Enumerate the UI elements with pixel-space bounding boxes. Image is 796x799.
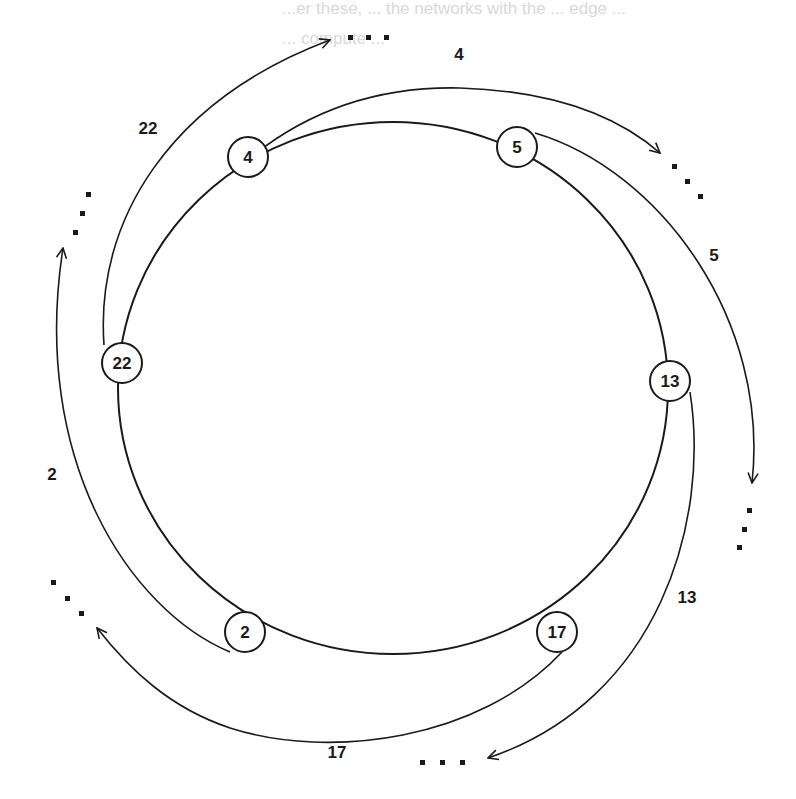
- node-13: 13: [650, 361, 690, 401]
- ellipsis-after-5: [737, 508, 752, 550]
- ellipsis-after-4: [672, 164, 703, 199]
- ellipsis-after-13: [420, 760, 465, 765]
- edge-label-2: 2: [47, 465, 56, 484]
- node-label-2: 2: [240, 623, 249, 642]
- edge-arc-from-13: [488, 392, 694, 758]
- edge-label-4: 4: [454, 45, 464, 64]
- diagram-svg: ...er these, ... the networks with the .…: [0, 0, 796, 799]
- edge-arc-from-5: [535, 133, 754, 483]
- node-2: 2: [225, 612, 265, 652]
- edge-label-13: 13: [678, 588, 697, 607]
- ellipsis-after-17: [51, 580, 84, 616]
- edge-arc-from-22: [103, 40, 330, 345]
- edge-label-17: 17: [328, 743, 347, 762]
- node-17: 17: [537, 612, 577, 652]
- node-5: 5: [497, 127, 537, 167]
- main-ring: [118, 122, 668, 654]
- ring-network-diagram: ...er these, ... the networks with the .…: [0, 0, 796, 799]
- edge-arc-from-2: [57, 248, 230, 652]
- node-label-13: 13: [661, 372, 680, 391]
- node-label-5: 5: [512, 138, 521, 157]
- node-label-17: 17: [548, 623, 567, 642]
- edge-label-5: 5: [709, 246, 718, 265]
- bleed-through-line-1: ...er these, ... the networks with the .…: [282, 0, 626, 18]
- node-4: 4: [228, 137, 268, 177]
- edge-arc-from-4: [236, 88, 660, 170]
- edge-label-22: 22: [139, 119, 158, 138]
- edge-arc-from-17: [97, 628, 562, 742]
- ellipsis-after-2: [73, 192, 91, 235]
- node-label-4: 4: [243, 148, 253, 167]
- node-22: 22: [102, 343, 142, 383]
- node-label-22: 22: [113, 354, 132, 373]
